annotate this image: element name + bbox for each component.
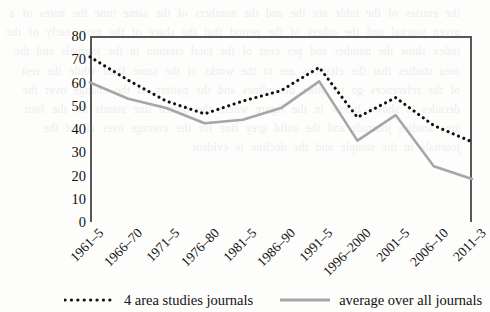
solid-line-swatch-icon <box>279 296 331 304</box>
x-tick-label: 1986–90 <box>255 226 298 269</box>
x-tick-label: 1976–80 <box>178 226 221 269</box>
x-tick-label: 1966–70 <box>102 226 145 269</box>
chart-legend: 4 area studies journals average over all… <box>40 288 490 312</box>
x-tick-label: 2011–3 <box>451 226 489 264</box>
legend-label: average over all journals <box>339 293 482 308</box>
x-tick-label: 1971–5 <box>144 226 183 265</box>
plot-area: 80 70 60 50 40 30 20 10 0 1961–51966–701… <box>40 16 490 312</box>
series-line-average-over-all-journals <box>90 81 472 179</box>
x-tick-label: 2006–10 <box>408 226 451 269</box>
legend-label: 4 area studies journals <box>124 293 253 308</box>
legend-item-average-over-all-journals: average over all journals <box>279 293 482 308</box>
series-line-4-area-studies-journals <box>90 57 472 142</box>
legend-item-4-area-studies-journals: 4 area studies journals <box>64 293 253 308</box>
dotted-line-swatch-icon <box>64 296 116 304</box>
x-axis: 1961–51966–701971–51976–801981–51986–901… <box>40 226 490 282</box>
line-chart-figure: 80 70 60 50 40 30 20 10 0 1961–51966–701… <box>40 16 426 288</box>
